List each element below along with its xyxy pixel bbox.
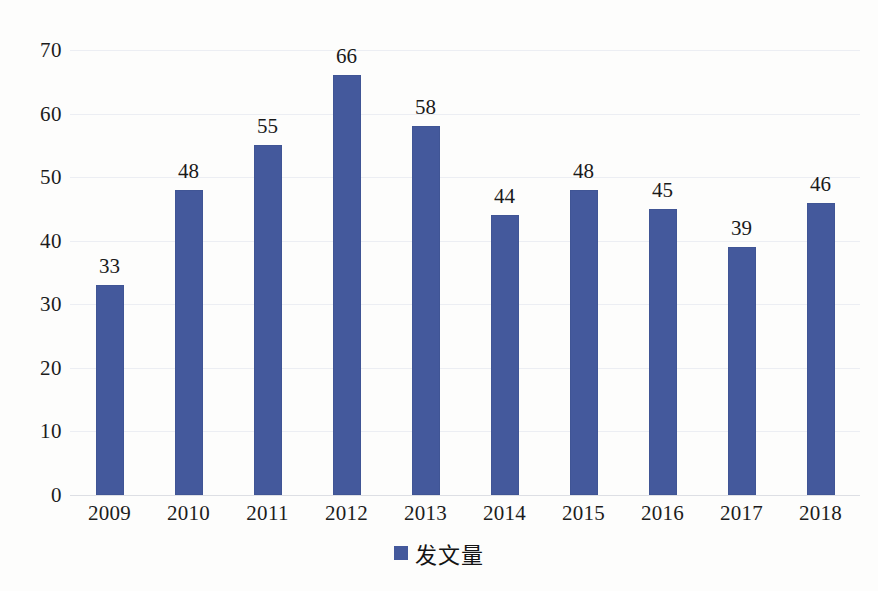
plot-area: 33485566584448453946 <box>70 50 860 495</box>
x-axis-tick-label: 2011 <box>228 502 307 525</box>
bar-value-label: 39 <box>731 218 752 239</box>
bar-group: 58 <box>386 50 465 495</box>
bar-value-label: 48 <box>573 161 594 182</box>
legend-label: 发文量 <box>415 537 484 569</box>
y-axis-tick-label: 40 <box>16 231 62 252</box>
x-axis-tick-label: 2015 <box>544 502 623 525</box>
bar-value-label: 48 <box>178 161 199 182</box>
bar-group: 55 <box>228 50 307 495</box>
bar[interactable] <box>807 203 835 495</box>
bar-value-label: 58 <box>415 97 436 118</box>
x-axis-tick-label: 2012 <box>307 502 386 525</box>
legend-swatch-icon <box>394 546 408 560</box>
x-axis-tick-label: 2016 <box>623 502 702 525</box>
bar-group: 66 <box>307 50 386 495</box>
x-axis-tick-label: 2014 <box>465 502 544 525</box>
chart-legend: 发文量 <box>0 537 878 569</box>
bar[interactable] <box>412 126 440 495</box>
y-axis-tick-label: 20 <box>16 358 62 379</box>
bar-group: 44 <box>465 50 544 495</box>
y-axis-tick-label: 30 <box>16 294 62 315</box>
bar-value-label: 66 <box>336 46 357 67</box>
bar[interactable] <box>491 215 519 495</box>
bar[interactable] <box>649 209 677 495</box>
x-axis-tick-label: 2010 <box>149 502 228 525</box>
bar-value-label: 46 <box>810 174 831 195</box>
bar-value-label: 33 <box>99 256 120 277</box>
bar-group: 45 <box>623 50 702 495</box>
bar-chart: 010203040506070 33485566584448453946 200… <box>0 0 878 591</box>
bar-group: 39 <box>702 50 781 495</box>
bar-group: 48 <box>149 50 228 495</box>
y-axis: 010203040506070 <box>14 50 62 495</box>
bar[interactable] <box>175 190 203 495</box>
bar-value-label: 45 <box>652 180 673 201</box>
y-axis-tick-label: 10 <box>16 421 62 442</box>
x-axis-tick-label: 2018 <box>781 502 860 525</box>
bar-value-label: 55 <box>257 116 278 137</box>
bar-group: 46 <box>781 50 860 495</box>
y-axis-tick-label: 0 <box>16 485 62 506</box>
bar-group: 33 <box>70 50 149 495</box>
bar[interactable] <box>570 190 598 495</box>
bar-value-label: 44 <box>494 186 515 207</box>
bar[interactable] <box>96 285 124 495</box>
x-axis-tick-label: 2017 <box>702 502 781 525</box>
bar[interactable] <box>254 145 282 495</box>
x-axis: 2009201020112012201320142015201620172018 <box>70 502 860 536</box>
axis-baseline <box>70 495 860 496</box>
x-axis-tick-label: 2009 <box>70 502 149 525</box>
bar[interactable] <box>728 247 756 495</box>
bar[interactable] <box>333 75 361 495</box>
y-axis-tick-label: 60 <box>16 104 62 125</box>
y-axis-tick-label: 70 <box>16 40 62 61</box>
x-axis-tick-label: 2013 <box>386 502 465 525</box>
bar-group: 48 <box>544 50 623 495</box>
y-axis-tick-label: 50 <box>16 167 62 188</box>
